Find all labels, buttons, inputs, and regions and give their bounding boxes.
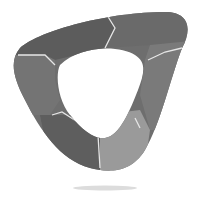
segmented-ring-logo [0, 0, 203, 205]
logo-graphic-icon [0, 0, 203, 205]
shadow [73, 186, 137, 191]
